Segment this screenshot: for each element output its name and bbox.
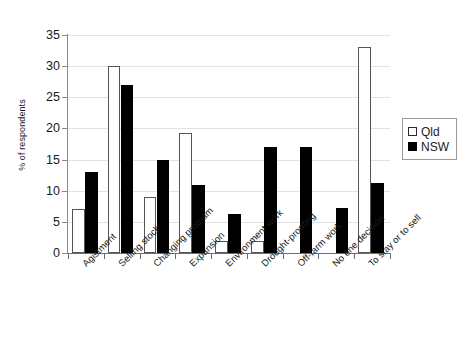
plot-area bbox=[68, 35, 390, 253]
bar-nsw-1[interactable] bbox=[121, 85, 134, 253]
bar-nsw-6[interactable] bbox=[300, 147, 313, 253]
y-tick-label: 10 bbox=[30, 185, 60, 198]
x-tick-mark bbox=[390, 254, 391, 259]
y-tick-label-wrap: 25 bbox=[22, 91, 60, 103]
y-tick-label: 0 bbox=[30, 247, 60, 260]
legend-item-qld[interactable]: Qld bbox=[408, 124, 449, 139]
x-tick-mark bbox=[354, 254, 355, 259]
y-tick-label: 25 bbox=[30, 91, 60, 104]
x-tick-mark bbox=[318, 254, 319, 259]
y-tick-label-wrap: 15 bbox=[22, 154, 60, 166]
bar-nsw-0[interactable] bbox=[85, 172, 98, 253]
x-tick-mark bbox=[175, 254, 176, 259]
x-tick-mark bbox=[247, 254, 248, 259]
y-tick-label: 30 bbox=[30, 60, 60, 73]
legend-label-qld: Qld bbox=[421, 126, 440, 138]
legend-item-nsw[interactable]: NSW bbox=[408, 139, 449, 154]
x-tick-mark bbox=[140, 254, 141, 259]
x-tick-mark bbox=[68, 254, 69, 259]
y-tick-label-wrap: 30 bbox=[22, 60, 60, 72]
x-tick-mark bbox=[211, 254, 212, 259]
bar-qld-0[interactable] bbox=[72, 209, 85, 253]
y-tick-label-wrap: 0 bbox=[22, 247, 60, 259]
legend: Qld NSW bbox=[402, 118, 457, 160]
x-tick-mark bbox=[104, 254, 105, 259]
gridline bbox=[68, 35, 390, 36]
y-tick-label-wrap: 20 bbox=[22, 122, 60, 134]
bar-nsw-2[interactable] bbox=[157, 160, 170, 253]
y-tick-label: 15 bbox=[30, 154, 60, 167]
bar-chart: % of respondents 05101520253035 Agistmen… bbox=[0, 0, 472, 362]
y-tick-label-wrap: 35 bbox=[22, 29, 60, 41]
legend-swatch-nsw-icon bbox=[408, 142, 417, 151]
bar-nsw-5[interactable] bbox=[264, 147, 277, 253]
y-tick-label: 20 bbox=[30, 122, 60, 135]
y-tick-label-wrap: 5 bbox=[22, 216, 60, 228]
bar-qld-1[interactable] bbox=[108, 66, 121, 253]
y-tick-label: 35 bbox=[30, 29, 60, 42]
x-tick-mark bbox=[283, 254, 284, 259]
legend-label-nsw: NSW bbox=[421, 141, 449, 153]
legend-swatch-qld-icon bbox=[408, 127, 417, 136]
y-tick-label-wrap: 10 bbox=[22, 185, 60, 197]
y-tick-label: 5 bbox=[30, 216, 60, 229]
